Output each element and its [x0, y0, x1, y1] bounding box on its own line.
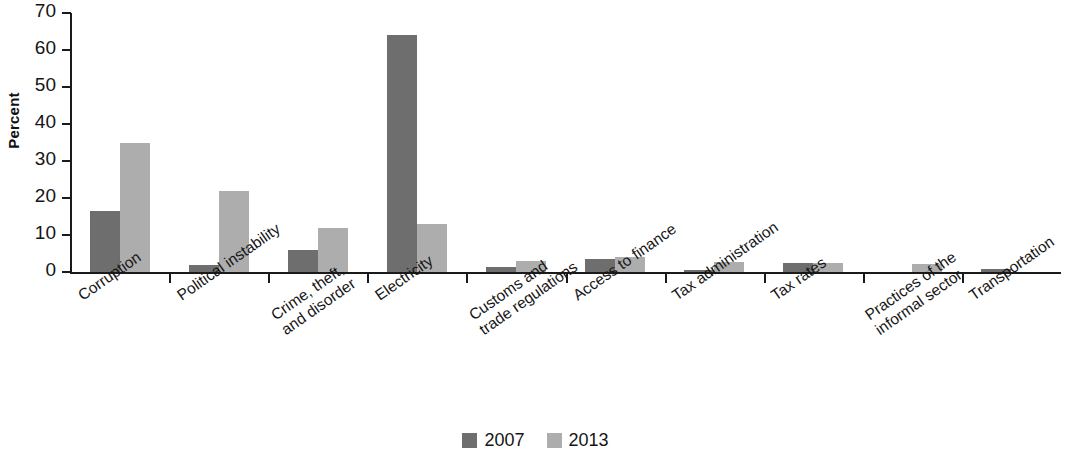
y-axis-tick-label: 20 [0, 185, 56, 207]
x-axis-tick-mark [764, 274, 766, 283]
x-axis-tick-mark [466, 274, 468, 283]
bar [486, 267, 516, 272]
y-axis-tick-label: 50 [0, 74, 56, 96]
y-axis-tick-label: 10 [0, 222, 56, 244]
legend-swatch [462, 433, 477, 448]
x-axis-tick-mark [169, 274, 171, 283]
chart-legend: 20072013 [0, 430, 1071, 451]
bar-chart: Percent 010203040506070 CorruptionPoliti… [0, 0, 1071, 462]
y-axis-tick-label: 0 [0, 259, 56, 281]
x-axis-tick-mark [268, 274, 270, 283]
bar [288, 250, 318, 272]
y-axis-tick-label: 40 [0, 111, 56, 133]
x-axis-tick-mark [665, 274, 667, 283]
legend-item: 2007 [462, 430, 524, 451]
legend-item: 2013 [547, 430, 609, 451]
y-axis-tick-label: 60 [0, 37, 56, 59]
legend-label: 2013 [569, 430, 609, 451]
x-axis-tick-mark [863, 274, 865, 283]
bar [387, 35, 417, 272]
x-axis-tick-mark [367, 274, 369, 283]
legend-label: 2007 [484, 430, 524, 451]
y-axis-tick-label: 70 [0, 0, 56, 22]
legend-swatch [547, 433, 562, 448]
y-axis-tick-label: 30 [0, 148, 56, 170]
bars-layer [70, 13, 1061, 272]
